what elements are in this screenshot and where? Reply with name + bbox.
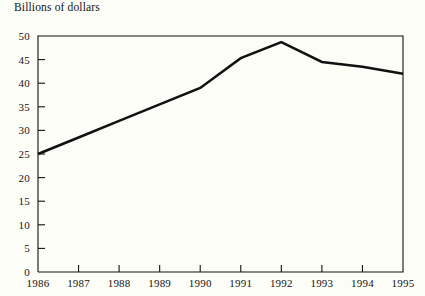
chart-plot-area [0, 0, 425, 296]
x-axis-tick-label: 1989 [138, 277, 182, 289]
y-axis-tick-label: 50 [4, 30, 30, 42]
x-axis-tick-label: 1992 [259, 277, 303, 289]
y-axis-tick-label: 25 [4, 148, 30, 160]
y-axis-tick-label: 5 [4, 242, 30, 254]
x-axis-tick-label: 1990 [178, 277, 222, 289]
y-axis-tick-label: 10 [4, 219, 30, 231]
axis-frame [38, 36, 403, 272]
x-axis-tick-label: 1991 [219, 277, 263, 289]
data-series-line [38, 42, 403, 154]
y-axis-tick-label: 20 [4, 172, 30, 184]
chart-container: Billions of dollars 05101520253035404550… [0, 0, 425, 296]
y-axis-tick-label: 30 [4, 124, 30, 136]
x-axis-tick-label: 1986 [16, 277, 60, 289]
x-axis-tick-label: 1988 [97, 277, 141, 289]
y-axis-tick-label: 15 [4, 195, 30, 207]
y-axis-tick-label: 40 [4, 77, 30, 89]
x-axis-ticks [79, 265, 363, 272]
y-axis-tick-label: 45 [4, 54, 30, 66]
x-axis-tick-label: 1995 [381, 277, 425, 289]
x-axis-tick-label: 1994 [340, 277, 384, 289]
x-axis-tick-label: 1993 [300, 277, 344, 289]
chart-axes [38, 36, 403, 272]
x-axis-tick-label: 1987 [57, 277, 101, 289]
y-axis-tick-label: 35 [4, 101, 30, 113]
